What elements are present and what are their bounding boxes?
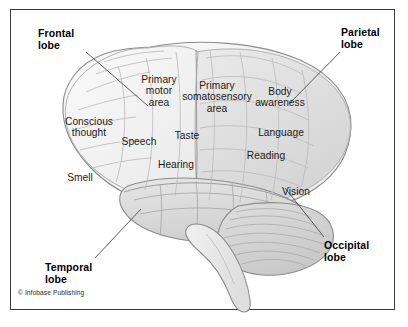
brain-diagram-figure: Frontal lobe Parietal lobe Temporal lobe… (0, 0, 408, 327)
label-temporal-lobe: Temporal lobe (45, 262, 92, 285)
publisher-credit: © Infobase Publishing (18, 289, 84, 296)
label-hearing: Hearing (153, 159, 199, 170)
label-conscious-thought: Conscious thought (58, 116, 120, 139)
label-smell: Smell (62, 172, 98, 183)
label-frontal-lobe: Frontal lobe (38, 28, 74, 51)
leader-temporal-lobe (95, 209, 141, 258)
label-language: Language (253, 127, 309, 138)
label-speech: Speech (118, 136, 160, 147)
label-primary-somatosensory-area: Primary somatosensory area (175, 80, 259, 114)
label-occipital-lobe: Occipital lobe (324, 240, 369, 263)
label-parietal-lobe: Parietal lobe (341, 27, 380, 50)
label-reading: Reading (242, 150, 290, 161)
label-vision: Vision (277, 186, 315, 197)
label-body-awareness: Body awareness (251, 86, 309, 109)
label-taste: Taste (170, 130, 204, 141)
